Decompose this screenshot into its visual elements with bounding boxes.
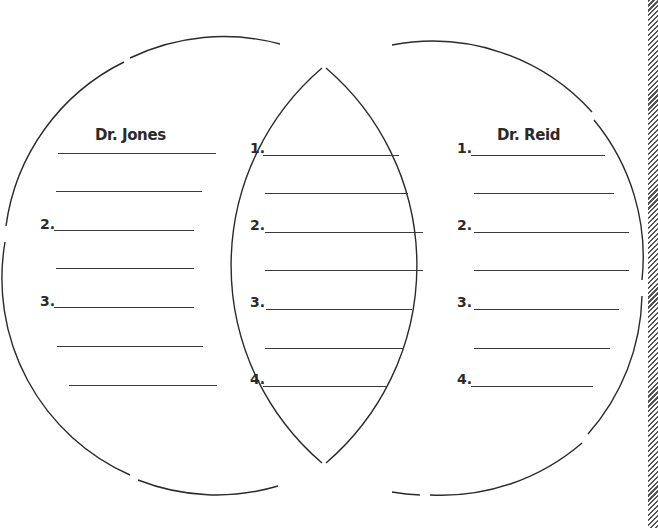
blank-line[interactable]	[69, 385, 217, 386]
row-number: 3.	[40, 293, 55, 309]
intersection-lens	[231, 68, 417, 463]
row-number: 3.	[250, 294, 265, 310]
blank-line[interactable]	[474, 270, 629, 271]
right-title: Dr. Reid	[497, 126, 560, 144]
blank-line[interactable]	[265, 348, 404, 349]
blank-line[interactable]	[57, 346, 203, 347]
blank-line[interactable]	[263, 155, 399, 156]
blank-line[interactable]	[471, 155, 605, 156]
blank-line[interactable]	[56, 191, 202, 192]
blank-line[interactable]	[54, 230, 194, 231]
blank-line[interactable]	[58, 153, 216, 154]
right-circle	[392, 41, 643, 495]
row-number: 2.	[457, 217, 472, 233]
left-circle	[2, 37, 280, 495]
blank-line[interactable]	[474, 232, 629, 233]
row-number: 1.	[250, 140, 265, 156]
blank-line[interactable]	[265, 270, 423, 271]
blank-line[interactable]	[56, 268, 194, 269]
blank-line[interactable]	[54, 307, 194, 308]
row-number: 2.	[250, 217, 265, 233]
blank-line[interactable]	[474, 348, 610, 349]
row-number: 2.	[40, 216, 55, 232]
blank-line[interactable]	[263, 386, 387, 387]
row-number: 4.	[457, 371, 472, 387]
blank-line[interactable]	[266, 309, 412, 310]
hatched-border	[648, 0, 658, 528]
venn-circles	[0, 0, 658, 528]
blank-line[interactable]	[265, 193, 408, 194]
blank-line[interactable]	[265, 232, 423, 233]
left-title: Dr. Jones	[95, 126, 166, 144]
row-number: 1.	[457, 140, 472, 156]
blank-line[interactable]	[474, 309, 619, 310]
venn-diagram: Dr. Jones Dr. Reid 2. 3.	[0, 0, 658, 528]
row-number: 4.	[250, 371, 265, 387]
blank-line[interactable]	[474, 193, 614, 194]
row-number: 3.	[457, 294, 472, 310]
blank-line[interactable]	[471, 386, 593, 387]
